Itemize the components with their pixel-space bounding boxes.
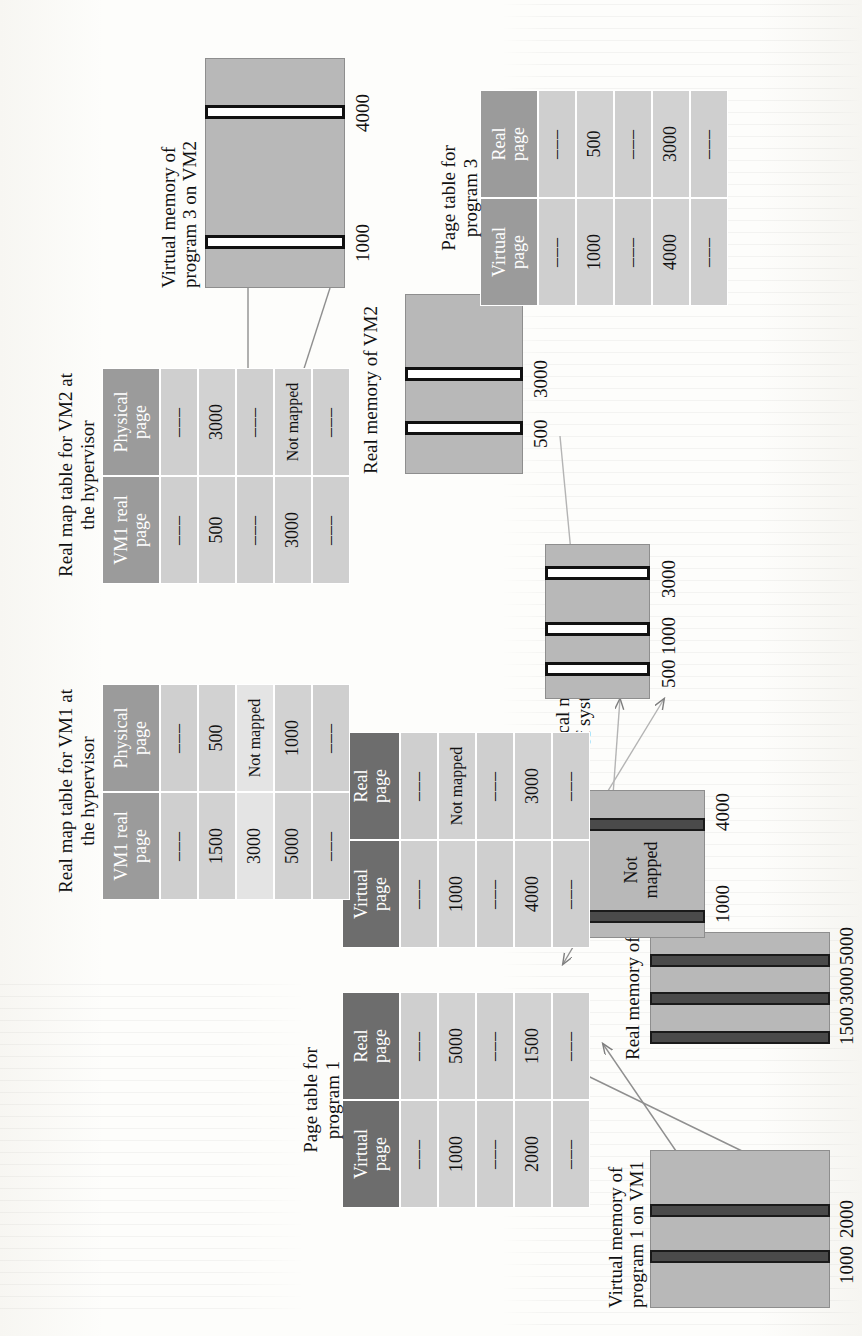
block-vm1-program1 (650, 1150, 830, 1308)
slot-physical-500 (545, 662, 650, 676)
column-header: Real page (342, 992, 400, 1100)
table-header-row: VM1 real pagePhysical page (102, 368, 160, 584)
column-header: Virtual page (342, 840, 400, 948)
table-cell: 3000 (274, 476, 312, 584)
table-row: –––––– (312, 368, 350, 584)
caption-page-table-program1: Page table for program 1 (300, 992, 344, 1208)
table-cell: 3000 (236, 792, 274, 900)
column-header: Physical page (102, 368, 160, 476)
table-cell: ––– (476, 840, 514, 948)
slot-vm2-program3-1000 (205, 235, 345, 249)
table-page-table-program1: Virtual pageReal page––––––10005000–––––… (342, 992, 590, 1208)
table-cell: ––– (312, 368, 350, 476)
table-cell: ––– (476, 992, 514, 1100)
slot-vm1-program2-1000 (585, 910, 705, 923)
table-row: 40003000 (652, 90, 690, 306)
slot-vm1-program2-4000 (585, 818, 705, 831)
table-cell: ––– (614, 90, 652, 198)
slot-label-vm1-program2-1000: 1000 (712, 885, 734, 923)
table-cell: 5000 (274, 792, 312, 900)
caption-real-map-vm1: Real map table for VM1 at the hypervisor (55, 646, 99, 936)
slot-label-vm2-program3-1000: 1000 (352, 224, 374, 262)
table-cell: ––– (312, 792, 350, 900)
slot-vm1-real-5000 (650, 954, 830, 967)
slot-label-vm2-real-3000: 3000 (530, 360, 552, 398)
slot-label-vm1-real-5000: 5000 (836, 927, 858, 965)
table-cell: 1000 (438, 1100, 476, 1208)
column-header: Real page (342, 732, 400, 840)
table-cell: 500 (198, 684, 236, 792)
slot-vm2-real-500 (405, 421, 523, 435)
table-row: 20001500 (514, 992, 552, 1208)
table-cell: ––– (552, 1100, 590, 1208)
table-row: 5003000 (198, 368, 236, 584)
caption-real-map-vm2: Real map table for VM2 at the hypervisor (55, 330, 99, 620)
table-cell: ––– (400, 840, 438, 948)
slot-physical-3000 (545, 566, 650, 580)
table-row: 1500500 (198, 684, 236, 900)
table-cell: ––– (160, 476, 198, 584)
table-cell: 4000 (652, 198, 690, 306)
table-cell: ––– (160, 368, 198, 476)
table-cell: 2000 (514, 1100, 552, 1208)
slot-label-vm1-program1-2000: 2000 (836, 1200, 858, 1238)
table-cell: 1500 (514, 992, 552, 1100)
table-cell: Not mapped (438, 732, 476, 840)
block-vm2-real (405, 294, 523, 474)
table-cell: 500 (198, 476, 236, 584)
table-cell: ––– (236, 476, 274, 584)
table-cell: ––– (552, 992, 590, 1100)
table-real-map-vm2: VM1 real pagePhysical page––––––5003000–… (102, 368, 350, 584)
slot-vm1-program1-2000 (650, 1204, 830, 1217)
table-row: 10005000 (438, 992, 476, 1208)
block-vm1-program2: Not mapped (585, 790, 705, 938)
table-cell: ––– (552, 840, 590, 948)
column-header: VM1 real page (102, 476, 160, 584)
table-row: –––––– (552, 992, 590, 1208)
slot-label-vm1-real-1500: 1500 (836, 1007, 858, 1045)
table-row: 40003000 (514, 732, 552, 948)
block-physical-memory (545, 544, 650, 699)
table-real-map-vm1: VM1 real pagePhysical page––––––15005003… (102, 684, 350, 900)
slot-label-physical-3000: 3000 (658, 560, 680, 598)
table-page-table-program3: Virtual pageReal page––––––1000500––––––… (480, 90, 728, 306)
table-cell: Not mapped (274, 368, 312, 476)
caption-page-table-program3: Page table for program 3 (438, 90, 482, 306)
table-cell: 3000 (198, 368, 236, 476)
table-row: –––––– (614, 90, 652, 306)
column-header: Virtual page (480, 198, 538, 306)
slot-label-vm1-program1-1000: 1000 (836, 1246, 858, 1284)
table-cell: ––– (236, 368, 274, 476)
table-cell: 4000 (514, 840, 552, 948)
block-vm1-real (650, 932, 830, 1044)
table-cell: ––– (312, 476, 350, 584)
table-cell: 1500 (198, 792, 236, 900)
slot-vm2-real-3000 (405, 367, 523, 381)
table-cell: 500 (576, 90, 614, 198)
column-header: Virtual page (342, 1100, 400, 1208)
table-cell: 1000 (438, 840, 476, 948)
table-cell: ––– (476, 732, 514, 840)
note-vm1-program2-not-mapped: Not mapped (622, 833, 662, 907)
label-vm2-real: Real memory of VM2 (360, 306, 381, 474)
table-cell: 3000 (514, 732, 552, 840)
table-cell: ––– (538, 198, 576, 306)
label-vm2-program3: Virtual memory of program 3 on VM2 (158, 141, 201, 288)
diagram-stage: Virtual memory of program 1 on VM1 1000 … (0, 0, 862, 1336)
table-row: 3000Not mapped (274, 368, 312, 584)
table-row: –––––– (160, 684, 198, 900)
table-cell: 3000 (652, 90, 690, 198)
block-vm2-program3 (205, 58, 345, 288)
table-row: –––––– (690, 90, 728, 306)
slot-label-vm1-program2-4000: 4000 (712, 793, 734, 831)
table-row: 1000500 (576, 90, 614, 306)
table-row: –––––– (476, 732, 514, 948)
slot-vm2-program3-4000 (205, 105, 345, 119)
slot-label-physical-500: 500 (658, 660, 680, 689)
table-row: –––––– (476, 992, 514, 1208)
table-cell: Not mapped (236, 684, 274, 792)
slot-physical-1000 (545, 622, 650, 636)
column-header: Real page (480, 90, 538, 198)
table-cell: ––– (400, 992, 438, 1100)
column-header: VM1 real page (102, 792, 160, 900)
